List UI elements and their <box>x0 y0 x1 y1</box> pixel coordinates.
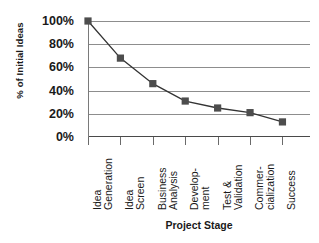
data-point-marker <box>117 55 124 62</box>
plot-area <box>88 21 310 137</box>
x-axis-tick-mark <box>120 137 121 145</box>
x-axis-tick-label-line: Commer- <box>254 164 265 210</box>
y-axis-tick-label: 20% <box>22 108 74 121</box>
x-axis-tick-label-line: Idea <box>92 158 103 210</box>
x-axis-tick-mark <box>250 137 251 145</box>
y-axis-tick-labels: 100% 80% 60% 40% 20% 0% <box>22 21 74 137</box>
x-axis-title: Project Stage <box>88 219 310 231</box>
series-polyline <box>88 21 282 122</box>
data-series-line <box>88 21 310 137</box>
y-axis-tick-label: 0% <box>22 131 74 144</box>
x-axis-tick-label: Develop-ment <box>189 168 210 210</box>
x-axis-tick-label: IdeaGeneration <box>92 158 113 210</box>
data-point-marker <box>214 104 221 111</box>
data-point-marker <box>182 97 189 104</box>
data-point-marker <box>279 118 286 125</box>
x-axis-tick-label-line: Business <box>157 167 168 210</box>
x-axis-tick-label: IdeaScreen <box>124 177 145 210</box>
x-axis-tick-label-line: Validation <box>232 165 243 210</box>
y-axis-tick-label: 60% <box>22 61 74 74</box>
x-axis-tick-label-line: Screen <box>135 177 146 210</box>
x-axis-tick-labels: IdeaGenerationIdeaScreenBusinessAnalysis… <box>88 146 310 214</box>
data-point-marker <box>149 80 156 87</box>
x-axis-tick-label-line: Test & <box>222 165 233 210</box>
x-axis-tick-mark <box>185 137 186 145</box>
y-axis-tick-label: 100% <box>22 15 74 28</box>
x-axis-tick-label: Test &Validation <box>222 165 243 210</box>
x-axis-tick-mark <box>282 137 283 145</box>
series-markers <box>84 17 286 125</box>
x-axis-tick-label: BusinessAnalysis <box>157 167 178 210</box>
x-axis-tick-label: Success <box>286 170 297 210</box>
x-axis-tick-label-line: Analysis <box>167 167 178 210</box>
x-axis-tick-mark <box>218 137 219 145</box>
x-axis-ticks <box>88 137 310 146</box>
data-point-marker <box>246 109 253 116</box>
y-axis-tick-label: 40% <box>22 84 74 97</box>
x-axis-tick-label-line: Generation <box>103 158 114 210</box>
x-axis-tick-mark <box>88 137 89 145</box>
x-axis-tick-label: Commer-cialization <box>254 164 275 210</box>
y-axis-tick-label: 80% <box>22 38 74 51</box>
x-axis-tick-label-line: Success <box>286 170 297 210</box>
chart-figure: % of Initial Ideas 100% 80% 60% 40% 20% … <box>0 0 319 243</box>
data-point-marker <box>84 17 91 24</box>
x-axis-tick-label-line: ment <box>200 168 211 210</box>
x-axis-tick-label-line: cialization <box>265 164 276 210</box>
x-axis-tick-mark <box>153 137 154 145</box>
